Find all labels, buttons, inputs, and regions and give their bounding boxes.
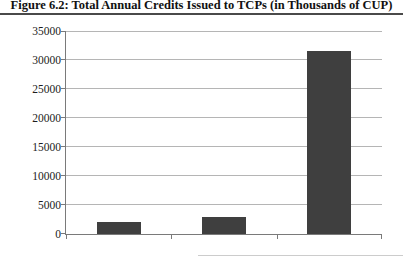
y-axis-tick-35000 bbox=[61, 31, 65, 32]
x-axis-tick-2 bbox=[277, 235, 278, 239]
y-axis-tick-25000 bbox=[61, 88, 65, 89]
chart-border-bottom-fragment bbox=[198, 255, 403, 256]
y-axis-tick-10000 bbox=[61, 175, 65, 176]
y-axis-label-35000: 35000 bbox=[1, 25, 61, 37]
bar-2014 bbox=[307, 51, 351, 234]
figure-title: Figure 6.2: Total Annual Credits Issued … bbox=[0, 0, 403, 13]
bar-2013 bbox=[202, 217, 246, 234]
title-divider bbox=[0, 13, 403, 15]
y-axis-label-0: 0 bbox=[1, 228, 61, 240]
y-axis-tick-0 bbox=[61, 233, 65, 234]
x-axis-tick-0 bbox=[66, 235, 67, 239]
y-axis-label-15000: 15000 bbox=[1, 141, 61, 153]
y-axis-tick-20000 bbox=[61, 117, 65, 118]
plot-area: 0500010000150002000025000300003500020122… bbox=[65, 31, 382, 235]
bar-2012 bbox=[97, 222, 141, 234]
x-axis-tick-3 bbox=[381, 235, 382, 239]
y-axis-label-20000: 20000 bbox=[1, 112, 61, 124]
y-axis-label-30000: 30000 bbox=[1, 54, 61, 66]
y-axis-label-5000: 5000 bbox=[1, 199, 61, 211]
bar-chart: 0500010000150002000025000300003500020122… bbox=[0, 16, 403, 256]
gridline-35000 bbox=[66, 31, 382, 32]
y-axis-tick-5000 bbox=[61, 204, 65, 205]
y-axis-label-10000: 10000 bbox=[1, 170, 61, 182]
y-axis-tick-15000 bbox=[61, 146, 65, 147]
x-axis-tick-1 bbox=[171, 235, 172, 239]
y-axis-tick-30000 bbox=[61, 59, 65, 60]
y-axis-label-25000: 25000 bbox=[1, 83, 61, 95]
figure: Figure 6.2: Total Annual Credits Issued … bbox=[0, 0, 403, 257]
